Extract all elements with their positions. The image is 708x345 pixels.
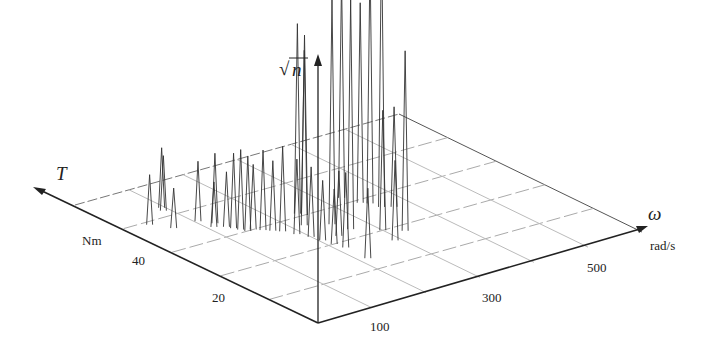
spike bbox=[195, 161, 201, 221]
plot-canvas: T Nm 40 20 100 300 500 ω rad/s √ n bbox=[0, 0, 708, 345]
spike bbox=[270, 161, 276, 231]
spike bbox=[367, 0, 373, 203]
axes bbox=[33, 54, 648, 323]
w-tick-500: 500 bbox=[587, 260, 607, 275]
spike bbox=[302, 35, 308, 215]
spike bbox=[308, 167, 314, 237]
sqrt-symbol: √ bbox=[279, 58, 290, 79]
w-axis-unit: rad/s bbox=[650, 238, 675, 253]
w-tick-100: 100 bbox=[370, 319, 390, 334]
w-axis-line bbox=[318, 229, 640, 323]
t-axis-label: T bbox=[56, 163, 68, 184]
spike-series bbox=[147, 0, 409, 258]
t-axis-arrow-icon bbox=[33, 187, 46, 195]
spike bbox=[238, 150, 244, 230]
chart-3d-spectrum: T Nm 40 20 100 300 500 ω rad/s √ n bbox=[0, 0, 708, 345]
spike bbox=[250, 164, 256, 229]
spike bbox=[294, 24, 300, 214]
t-tick-20: 20 bbox=[212, 290, 225, 305]
w-axis-label: ω bbox=[648, 203, 661, 224]
t-axis-unit: Nm bbox=[82, 233, 102, 248]
z-axis-var: n bbox=[292, 59, 302, 80]
spike bbox=[231, 153, 237, 228]
z-axis-arrow-icon bbox=[314, 54, 322, 66]
spike bbox=[402, 51, 408, 231]
spike bbox=[260, 150, 266, 230]
spike bbox=[357, 3, 363, 203]
spike bbox=[171, 188, 177, 228]
spike bbox=[280, 146, 286, 231]
t-tick-40: 40 bbox=[132, 253, 145, 268]
t-axis-line bbox=[40, 190, 318, 323]
spike bbox=[380, 110, 386, 230]
spike bbox=[212, 153, 218, 223]
spike bbox=[348, 0, 354, 229]
w-tick-300: 300 bbox=[482, 290, 502, 305]
